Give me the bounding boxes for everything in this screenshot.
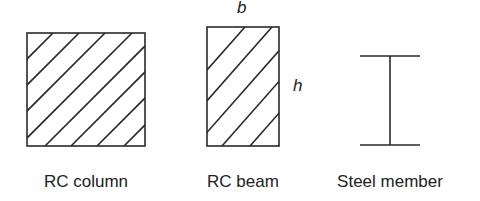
steel-member-section [360, 56, 420, 145]
beam-outline [207, 27, 279, 146]
rc-beam-section [140, 27, 383, 146]
rc-column-section [0, 33, 237, 146]
beam-width-label: b [237, 0, 246, 18]
rc-column-caption: RC column [44, 172, 128, 192]
hatch-pattern [140, 27, 383, 146]
rc-beam-caption: RC beam [207, 172, 279, 192]
hatch-pattern [0, 33, 237, 146]
steel-member-caption: Steel member [337, 172, 443, 192]
beam-height-label: h [293, 76, 302, 96]
cross-section-diagram [0, 0, 480, 201]
